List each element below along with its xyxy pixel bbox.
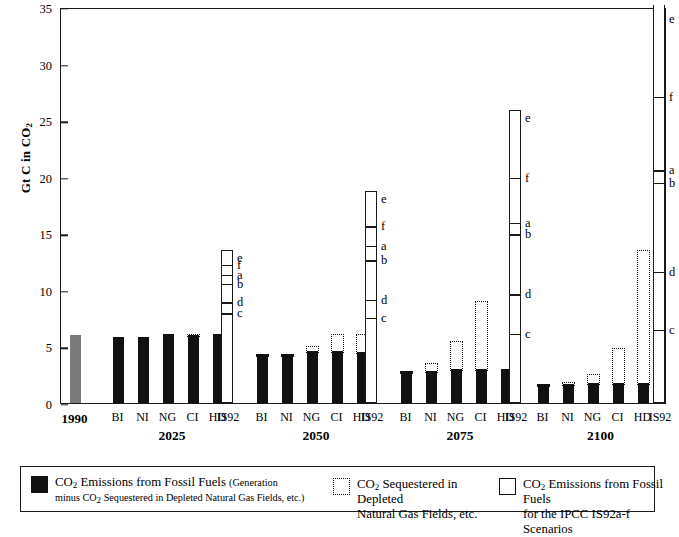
is92-bar-2050: efabdc: [365, 191, 377, 403]
is92-scenario-label-2075-f: f: [525, 171, 529, 184]
is92-segment-line-2050-b: [365, 260, 378, 261]
is92-segment-line-2100-a: [653, 170, 666, 171]
x-group-label-2025: 2025: [159, 428, 186, 444]
x-group-label-2100: 2100: [587, 428, 614, 444]
sequestered-2100-CI: [612, 348, 625, 384]
is92-scenario-label-2100-f: f: [669, 90, 673, 103]
x-group-label-1990: 1990: [62, 411, 88, 427]
is92-segment-line-2075-f: [509, 178, 522, 179]
is92-segment-line-2075-b: [509, 234, 522, 235]
is92-scenario-label-2075-b: b: [525, 228, 531, 241]
is92-scenario-label-2100-e: e: [669, 13, 675, 26]
is92-segment-line-2025-a: [221, 275, 234, 276]
legend-is92-line2: for the IPCC IS92a-f Scenarios: [523, 507, 630, 536]
is92-scenario-label-2100-d: d: [669, 266, 675, 279]
is92-segment-line-2075-a: [509, 223, 522, 224]
sequestered-2050-BI: [256, 354, 269, 356]
legend-item-sequestered: CO2 Sequestered in Depleted Natural Gas …: [333, 477, 503, 522]
bar-2100-NI: [563, 384, 574, 403]
is92-scenario-label-2050-d: d: [381, 294, 387, 307]
y-tick-label-30: 30: [40, 58, 62, 73]
x-group-label-2050: 2050: [303, 428, 330, 444]
x-label-2100-IS92: IS92: [649, 410, 672, 425]
y-axis-title: Gt C in CO2: [18, 88, 34, 228]
y-tick-mark: [61, 404, 68, 405]
sequestered-2100-NG: [587, 374, 600, 384]
legend-seq-line1: CO2 Sequestered in Depleted: [357, 477, 457, 506]
y-tick-label-10: 10: [40, 284, 62, 299]
x-label-2100-CI: CI: [612, 410, 624, 425]
legend-label-sequestered: CO2 Sequestered in Depleted Natural Gas …: [357, 477, 503, 522]
y-tick-label-25: 25: [40, 115, 62, 130]
is92-segment-line-2050-d: [365, 300, 378, 301]
x-label-2075-CI: CI: [475, 410, 487, 425]
y-tick-label-5: 5: [46, 341, 61, 356]
x-label-2075-BI: BI: [400, 410, 412, 425]
is92-segment-line-2025-f: [221, 265, 234, 266]
x-group-label-2075: 2075: [447, 428, 474, 444]
x-label-2025-CI: CI: [187, 410, 199, 425]
sequestered-2100-HD: [637, 250, 650, 385]
is92-scenario-label-2100-c: c: [669, 323, 675, 336]
sequestered-2075-BI: [400, 371, 413, 373]
is92-scenario-label-2100-b: b: [669, 176, 675, 189]
bar-2050-NG: [307, 351, 318, 403]
is92-segment-line-2050-c: [365, 318, 378, 319]
legend-label-emissions: CO2 Emissions from Fossil Fuels (Generat…: [55, 475, 305, 506]
legend-is92-line1: CO2 Emissions from Fossil Fuels: [523, 477, 663, 506]
x-label-2025-IS92: IS92: [217, 410, 240, 425]
is92-scenario-label-2025-b: b: [237, 278, 243, 291]
x-label-2050-NG: NG: [303, 410, 320, 425]
y-tick-label-35: 35: [40, 2, 62, 17]
bar-2025-NG: [163, 334, 174, 403]
sequestered-2075-NG: [450, 341, 463, 372]
bar-2100-BI: [538, 384, 549, 403]
bar-2100-NG: [588, 383, 599, 403]
bar-2025-BI: [113, 337, 124, 403]
legend-swatch-filled: [31, 476, 48, 493]
is92-scenario-label-2050-c: c: [381, 312, 387, 325]
is92-scenario-label-2050-b: b: [381, 254, 387, 267]
y-tick-label-0: 0: [46, 398, 61, 413]
bar-2100-HD: [638, 383, 649, 403]
is92-segment-line-2050-f: [365, 226, 378, 227]
bar-2075-CI: [476, 369, 487, 403]
bar-2100-CI: [613, 383, 624, 403]
x-label-2050-NI: NI: [280, 410, 293, 425]
is92-scenario-label-2050-f: f: [381, 220, 385, 233]
bar-2075-NI: [426, 371, 437, 403]
legend-item-is92: CO2 Emissions from Fossil Fuels for the …: [499, 477, 679, 537]
sequestered-2025-CI: [187, 334, 200, 337]
chart-legend: CO2 Emissions from Fossil Fuels (Generat…: [20, 466, 655, 512]
x-label-2100-BI: BI: [537, 410, 549, 425]
is92-segment-line-2025-c: [221, 313, 234, 314]
bar-2050-BI: [257, 354, 268, 403]
bar-2050-NI: [282, 354, 293, 403]
bar-2025-CI: [188, 335, 199, 403]
bar-1990-1990: [70, 335, 81, 403]
is92-scenario-label-2025-c: c: [237, 307, 243, 320]
x-label-2025-NI: NI: [136, 410, 149, 425]
x-label-2100-NI: NI: [561, 410, 574, 425]
is92-segment-line-2025-b: [221, 284, 234, 285]
bar-2075-NG: [451, 369, 462, 403]
plot-area: 05101520253035 efabdcefabdcefabdcefabdc: [60, 8, 666, 404]
y-tick-label-15: 15: [40, 228, 62, 243]
is92-segment-line-2050-a: [365, 246, 378, 247]
is92-segment-line-2025-d: [221, 302, 234, 303]
is92-scenario-label-2075-e: e: [525, 112, 531, 125]
x-label-2100-NG: NG: [584, 410, 601, 425]
legend-swatch-open: [499, 478, 516, 495]
is92-segment-line-2100-c: [653, 330, 666, 331]
is92-segment-line-2075-c: [509, 334, 522, 335]
x-label-2075-IS92: IS92: [505, 410, 528, 425]
is92-segment-line-2075-d: [509, 294, 522, 295]
sequestered-2100-NI: [562, 382, 575, 385]
is92-bar-2100: efabdc: [653, 5, 665, 403]
is92-scenario-label-2050-e: e: [381, 193, 387, 206]
sequestered-2050-NI: [281, 354, 294, 356]
sequestered-2050-NG: [306, 346, 319, 353]
legend-seq-line2: Natural Gas Fields, etc.: [357, 507, 477, 521]
x-label-2075-NG: NG: [447, 410, 464, 425]
